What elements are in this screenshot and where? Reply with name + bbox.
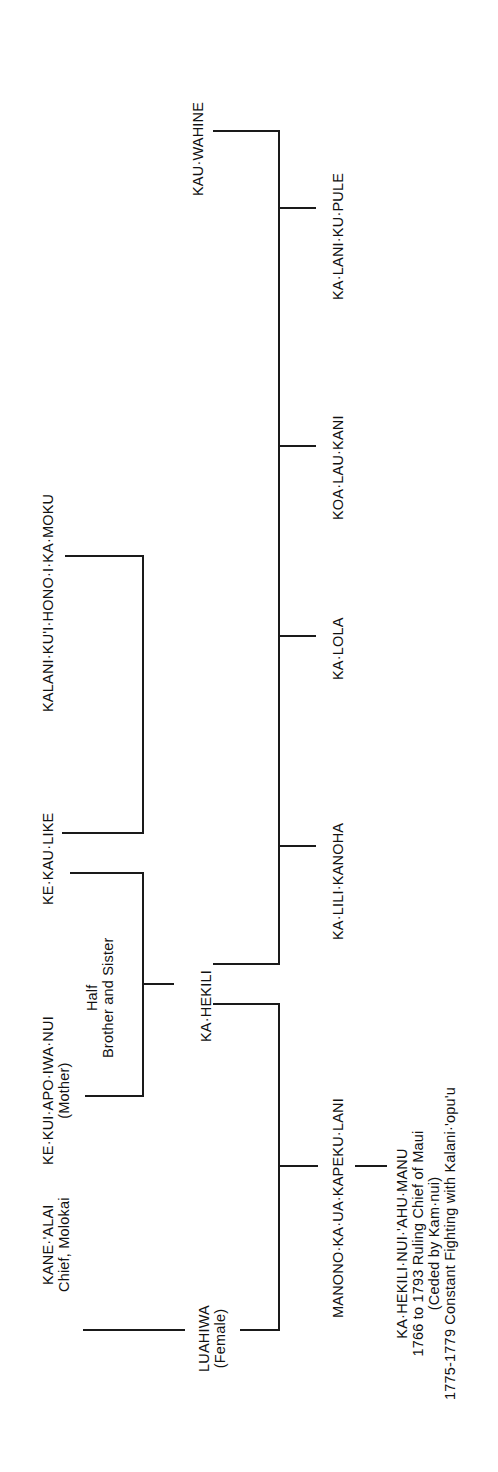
person-name: KA·LANI·KU·PULE	[330, 173, 346, 300]
tick-kalanikupule	[278, 207, 316, 209]
tick-kalola	[278, 635, 316, 637]
person-luahiwa: LUAHIWA (Female)	[196, 1305, 228, 1372]
tick-koalaukani	[278, 445, 316, 447]
link-to-kahekili	[142, 983, 174, 985]
person-kalola: KA·LOLA	[330, 617, 346, 680]
bracket-kahekili-lower	[213, 1003, 280, 1005]
person-kekuiapoiwanui: KE·KUI·APO·IWA·NUI (Mother)	[40, 1016, 72, 1165]
person-kahekilinui: KA·HEKILI·NUI·'AHU·MANU 1766 to 1793 Rul…	[394, 1087, 458, 1400]
person-kalilikanoha: KA·LILI·KANOHA	[330, 823, 346, 940]
bracket-kekuiapo	[85, 1095, 144, 1097]
bracket-kalanikui	[65, 555, 144, 557]
person-name: MANONO·KA·UA·KAPEKU·LANI	[330, 1098, 346, 1318]
person-note: (Mother)	[56, 1016, 72, 1165]
person-name: KOA·LAU·KANI	[330, 415, 346, 520]
bracket-kauwahine	[213, 130, 280, 132]
brother-sister-label: Brother and Sister	[100, 938, 116, 1058]
person-kauwahine: KAU·WAHINE	[190, 102, 206, 196]
fighting-note: 1775-1779 Constant Fighting with Kalani·…	[442, 1087, 458, 1400]
person-kekaulike: KE·KAU·LIKE	[40, 813, 56, 905]
person-manono: MANONO·KA·UA·KAPEKU·LANI	[330, 1098, 346, 1318]
ceded-note: (Ceded by Kam·nui)	[426, 1087, 442, 1400]
half-siblings-note: Half Brother and Sister	[84, 938, 116, 1058]
half-label: Half	[84, 938, 100, 1058]
person-name: KANE·'ALAI	[40, 1197, 56, 1292]
person-name: KA·HEKILI·NUI·'AHU·MANU	[394, 1087, 410, 1400]
link-kanealai-luahiwa	[83, 1329, 185, 1331]
bracket-kauwahine-vertical	[278, 130, 280, 965]
person-note: Chief, Molokai	[56, 1197, 72, 1292]
person-kalanikuihonoikamoku: KALANI·KU'I·HONO·I·KA·MOKU	[40, 494, 56, 712]
person-kahekili: KA·HEKILI	[198, 970, 214, 1042]
person-note: (Female)	[212, 1305, 228, 1372]
reign-note: 1766 to 1793 Ruling Chief of Maui	[410, 1087, 426, 1400]
person-name: KE·KAU·LIKE	[40, 813, 56, 905]
bracket-kahekili-upper	[213, 963, 280, 965]
person-name: KALANI·KU'I·HONO·I·KA·MOKU	[40, 494, 56, 712]
link-manono-kahekilinui	[355, 1165, 387, 1167]
bracket-kekaulike	[70, 872, 144, 874]
bracket-luahiwa-vertical	[278, 1003, 280, 1331]
bracket-kalanikui-vertical	[142, 555, 144, 834]
person-kalanikupule: KA·LANI·KU·PULE	[330, 173, 346, 300]
person-name: KAU·WAHINE	[190, 102, 206, 196]
person-name: KE·KUI·APO·IWA·NUI	[40, 1016, 56, 1165]
person-koalaukani: KOA·LAU·KANI	[330, 415, 346, 520]
person-name: KA·LILI·KANOHA	[330, 823, 346, 940]
bracket-kekaulike-upper	[62, 832, 144, 834]
tick-kalilikanoha	[278, 845, 316, 847]
person-name: KA·LOLA	[330, 617, 346, 680]
person-name: LUAHIWA	[196, 1305, 212, 1372]
tick-manono	[278, 1165, 318, 1167]
person-name: KA·HEKILI	[198, 970, 214, 1042]
bracket-luahiwa	[240, 1329, 280, 1331]
person-kanealai: KANE·'ALAI Chief, Molokai	[40, 1197, 72, 1292]
